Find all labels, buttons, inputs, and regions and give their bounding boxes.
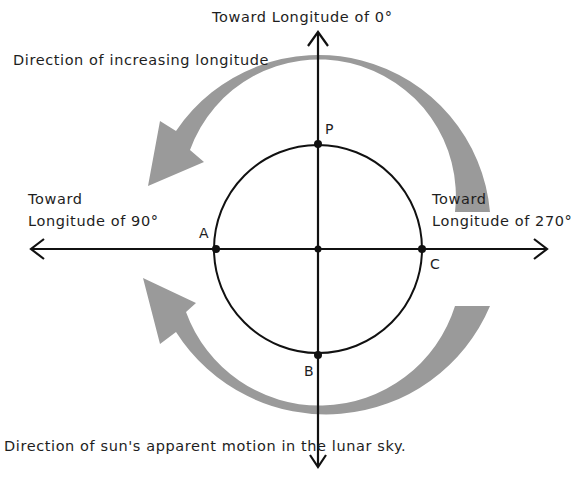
lunar-longitude-diagram (0, 0, 578, 479)
label-toward-270-line2: Longitude of 270° (432, 212, 572, 230)
point-C-label: C (430, 256, 440, 272)
label-sun-motion: Direction of sun's apparent motion in th… (4, 437, 406, 455)
label-toward-0: Toward Longitude of 0° (212, 8, 393, 26)
label-toward-90-line1: Toward (28, 190, 83, 208)
label-increasing-longitude: Direction of increasing longitude (13, 51, 269, 69)
label-toward-270-line1: Toward (432, 190, 487, 208)
point-P-marker (314, 140, 322, 148)
sun-motion-arrow (143, 278, 490, 414)
center-marker (315, 246, 322, 253)
point-B-marker (314, 351, 322, 359)
point-A-label: A (199, 225, 209, 241)
point-A-marker (212, 245, 220, 253)
horizontal-axis (31, 239, 547, 259)
label-toward-90-line2: Longitude of 90° (28, 212, 159, 230)
point-C-marker (418, 245, 426, 253)
point-P-label: P (325, 121, 333, 137)
point-B-label: B (304, 363, 314, 379)
